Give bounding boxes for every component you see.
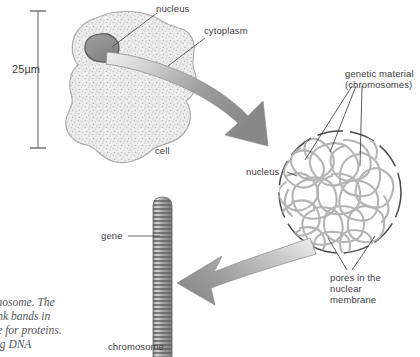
- scale-bar-label: 25µm: [12, 64, 40, 76]
- label-genetic-material-line1: genetic material: [345, 68, 414, 80]
- label-chromosome: chromosome: [108, 341, 164, 353]
- caption-line-3: le for proteins.: [0, 323, 62, 337]
- label-gene: gene: [101, 230, 123, 242]
- caption-line-4: ng DNA: [0, 337, 31, 351]
- label-cell: cell: [155, 145, 170, 157]
- caption-line-2: ink bands in: [0, 309, 50, 323]
- label-pores-line2: nuclear: [330, 283, 362, 295]
- caption-line-1: mosome. The: [0, 295, 55, 309]
- label-pores-line3: membrane: [330, 294, 376, 306]
- label-genetic-material-line2: (chromosomes): [345, 79, 412, 91]
- label-nucleus-big: nucleus: [246, 166, 279, 178]
- label-nucleus-cell: nucleus: [156, 3, 189, 15]
- diagram-canvas: 25µm nucleus cytoplasm cell genetic mate…: [0, 0, 420, 357]
- scale-bar: [30, 11, 46, 148]
- label-cytoplasm: cytoplasm: [204, 25, 248, 37]
- chromosome-rod: [152, 197, 173, 357]
- label-pores-line1: pores in the: [330, 272, 381, 284]
- arrow-nucleus-to-chromosome: [177, 238, 316, 305]
- cell-body: [66, 12, 197, 163]
